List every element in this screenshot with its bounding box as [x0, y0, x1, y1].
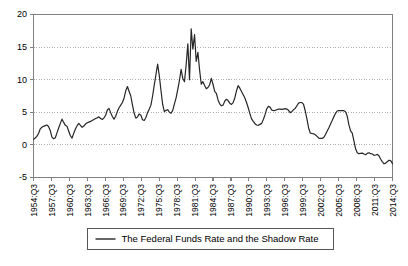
x-tick-label: 1969:Q3 [118, 184, 128, 217]
y-tick-label: -5 [19, 172, 27, 182]
y-tick-label: 0 [22, 140, 27, 150]
line-chart-svg: -505101520 1954:Q31957:Q31960:Q31963:Q31… [0, 0, 408, 266]
x-tick-label: 1957:Q3 [47, 184, 57, 217]
x-tick-label: 2011:Q3 [370, 184, 380, 216]
x-tick-label: 1966:Q3 [101, 184, 111, 217]
x-tick-label: 2008:Q3 [352, 184, 362, 217]
x-tick-label: 1975:Q3 [154, 184, 164, 217]
x-tick-label: 1996:Q3 [280, 184, 290, 217]
chart-figure: -505101520 1954:Q31957:Q31960:Q31963:Q31… [0, 0, 408, 266]
y-tick-label: 5 [22, 107, 27, 117]
x-tick-label: 1981:Q3 [190, 184, 200, 217]
x-tick-label: 1984:Q3 [208, 184, 218, 217]
x-tick-label: 1963:Q3 [83, 184, 93, 217]
x-tick-label: 1993:Q3 [262, 184, 272, 217]
chart-legend[interactable]: The Federal Funds Rate and the Shadow Ra… [88, 229, 334, 250]
x-tick-label: 1960:Q3 [65, 184, 75, 217]
x-tick-label: 1987:Q3 [226, 184, 236, 217]
x-tick-label: 1990:Q3 [244, 184, 254, 217]
x-tick-label: 2014:Q3 [388, 184, 398, 217]
legend-entry-label: The Federal Funds Rate and the Shadow Ra… [122, 233, 319, 244]
figure-background [0, 0, 408, 266]
x-tick-label: 1999:Q3 [298, 184, 308, 217]
x-tick-label: 2002:Q3 [316, 184, 326, 217]
y-tick-label: 15 [17, 42, 27, 52]
y-tick-label: 20 [17, 9, 27, 19]
x-tick-label: 1978:Q3 [172, 184, 182, 217]
x-tick-label: 1954:Q3 [29, 184, 39, 217]
y-tick-label: 10 [17, 75, 27, 85]
x-tick-label: 2005:Q3 [334, 184, 344, 217]
x-tick-label: 1972:Q3 [136, 184, 146, 217]
